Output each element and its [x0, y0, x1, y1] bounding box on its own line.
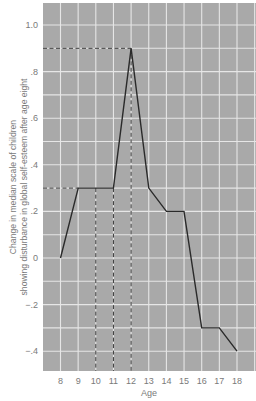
x-tick-label: 12	[126, 376, 136, 386]
y-axis-label-line-1: Change in median scale of children	[8, 120, 18, 254]
x-axis-label: Age	[141, 388, 157, 398]
y-tick-label: 0	[33, 253, 38, 263]
x-tick-label: 17	[214, 376, 224, 386]
y-tick-label: −.4	[25, 346, 38, 356]
x-tick-label: 10	[91, 376, 101, 386]
y-tick-label: .8	[30, 67, 38, 77]
y-tick-label: 1.0	[25, 20, 38, 30]
x-tick-label: 13	[144, 376, 154, 386]
y-tick-label: .4	[30, 160, 38, 170]
x-tick-label: 11	[109, 376, 118, 386]
x-tick-label: 9	[76, 376, 81, 386]
y-tick-label: −.2	[25, 300, 38, 310]
x-tick-label: 16	[197, 376, 207, 386]
y-axis-label: Change in median scale of children showi…	[8, 78, 29, 295]
x-tick-label: 8	[58, 376, 63, 386]
plot-area	[43, 3, 256, 371]
x-tick-label: 18	[232, 376, 242, 386]
x-tick-label: 14	[161, 376, 171, 386]
y-tick-label: .6	[30, 113, 38, 123]
y-axis-label-line-2: showing disturbance in global self-estee…	[19, 78, 29, 295]
x-tick-label: 15	[179, 376, 189, 386]
line-chart: 1.0.8.6.4.20−.2−.4 89101112131415161718 …	[0, 0, 256, 401]
y-tick-label: .2	[30, 206, 38, 216]
x-axis-tick-labels: 89101112131415161718	[58, 376, 242, 386]
